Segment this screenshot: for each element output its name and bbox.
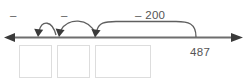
jump-label-2: – [61, 10, 68, 22]
number-line-left-arrowhead [4, 33, 15, 42]
number-line-right-arrowhead [231, 33, 243, 42]
jump-arc-3-arrowhead [91, 29, 100, 38]
answer-box-3[interactable] [95, 45, 151, 78]
start-value-label: 487 [190, 47, 210, 59]
answer-box-1[interactable] [19, 45, 52, 78]
jump-arc-2 [61, 21, 96, 34]
jump-arc-1 [39, 23, 56, 35]
jump-arc-2-arrowhead [56, 29, 65, 37]
number-line-worksheet: – – – 200 487 [0, 0, 246, 80]
jump-label-3: – 200 [135, 10, 165, 22]
jump-label-1: – [10, 10, 17, 22]
jump-arc-3 [97, 22, 196, 38]
jump-arc-1-arrowhead [34, 29, 43, 37]
answer-box-2[interactable] [57, 45, 90, 78]
